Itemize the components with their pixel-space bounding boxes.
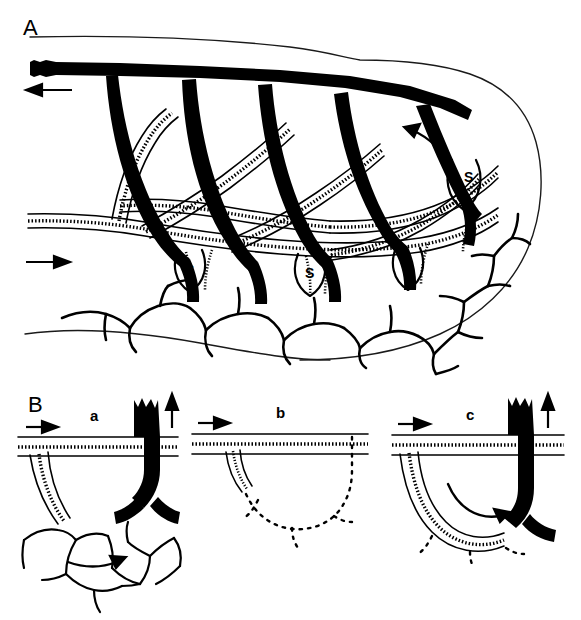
subpanel-b-letter: b <box>276 404 285 421</box>
subpanel-a-inflow-arrow <box>26 421 58 433</box>
arterial-inflow-arrow <box>26 256 70 268</box>
sinus-label-1: S <box>185 262 194 278</box>
subpanel-c-artery-loop <box>400 452 504 551</box>
subpanel-a-capillary-flow-arrow <box>68 556 126 568</box>
subpanel-b-artery-stump <box>226 450 252 492</box>
figure-root: A <box>0 0 581 620</box>
panel-b-letter: B <box>28 392 43 417</box>
subpanel-a-outflow-arrow <box>166 394 178 428</box>
subpanel-a: a <box>18 394 181 612</box>
subpanel-b-artery-horizontal <box>192 434 368 454</box>
subpanel-a-artery-limb <box>30 452 70 524</box>
subpanel-c-outflow-arrow <box>542 394 554 428</box>
panel-a: A <box>23 15 541 374</box>
capillary-network-a <box>62 214 530 374</box>
subpanel-c-inflow-arrow <box>398 418 430 430</box>
subpanel-c-letter: c <box>466 406 474 423</box>
venous-arch-1 <box>106 75 190 268</box>
subpanel-c: c <box>392 394 564 568</box>
venous-descender-2 <box>246 262 267 304</box>
subpanel-c-loop-flow-arrow <box>448 484 510 522</box>
sinus-label-2: S <box>305 265 314 281</box>
subpanel-a-vein-branch-right <box>150 497 180 524</box>
subpanel-c-vein <box>504 397 534 528</box>
sinus-label-3: S <box>403 259 412 275</box>
sinus-label-4: S <box>464 169 473 185</box>
subpanel-b-inflow-arrow <box>198 417 230 429</box>
subpanel-b-ghost-loop <box>246 436 352 529</box>
subpanel-a-letter: a <box>90 407 99 424</box>
subpanel-b-ghost-tips <box>244 500 352 548</box>
subpanel-b: b <box>192 404 368 548</box>
panel-b: B a <box>18 392 564 612</box>
subpanel-a-vein <box>132 398 160 508</box>
subpanel-c-tips <box>418 536 524 568</box>
vascular-figure: A <box>0 0 581 620</box>
venous-outflow-arrow <box>26 84 72 96</box>
subpanel-c-vein-branch <box>522 514 556 542</box>
venous-trunk <box>30 60 472 120</box>
